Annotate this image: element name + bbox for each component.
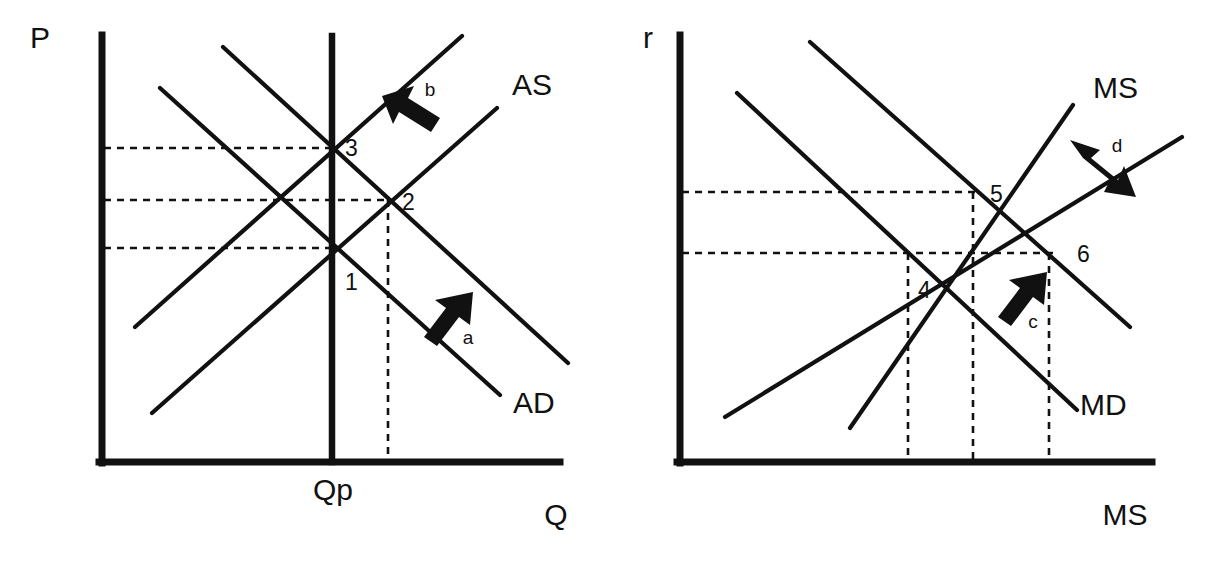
demand-shift-label-a: a xyxy=(463,327,474,348)
supply-shift-label-b: b xyxy=(425,79,436,100)
money-demand-shift-arrow-c xyxy=(998,272,1047,326)
ad-as-panel: P Q Qp AS AD 1 2 3 b a xyxy=(30,21,568,531)
curve-aggregate-supply-initial xyxy=(152,108,497,413)
right-x-axis-label: MS xyxy=(1103,498,1148,531)
money-supply-shift-arrow-d xyxy=(1070,140,1136,197)
aggregate-demand-label: AD xyxy=(513,386,555,419)
economics-diagram-figure: P Q Qp AS AD 1 2 3 b a xyxy=(0,0,1226,561)
money-demand-shift-label-c: c xyxy=(1028,311,1038,332)
equilibrium-point-6-label: 6 xyxy=(1077,241,1090,267)
money-supply-label: MS xyxy=(1093,71,1138,104)
equilibrium-point-4-label: 4 xyxy=(918,277,931,303)
curve-money-demand-shifted xyxy=(810,42,1130,327)
left-y-axis-label: P xyxy=(30,21,50,54)
curve-money-supply-initial xyxy=(850,105,1073,428)
equilibrium-point-3-label: 3 xyxy=(345,135,358,161)
right-y-axis-label: r xyxy=(643,21,653,54)
diagram-canvas: P Q Qp AS AD 1 2 3 b a xyxy=(0,0,1226,561)
equilibrium-point-2-label: 2 xyxy=(402,189,415,215)
money-demand-label: MD xyxy=(1080,388,1127,421)
money-supply-shift-label-d: d xyxy=(1112,135,1123,156)
potential-output-label: Qp xyxy=(313,473,353,506)
left-x-axis-label: Q xyxy=(544,498,567,531)
aggregate-supply-label: AS xyxy=(512,68,552,101)
equilibrium-point-5-label: 5 xyxy=(990,181,1003,207)
equilibrium-point-1-label: 1 xyxy=(345,269,358,295)
money-market-panel: r MS MS MD 4 5 6 d c xyxy=(643,21,1182,531)
